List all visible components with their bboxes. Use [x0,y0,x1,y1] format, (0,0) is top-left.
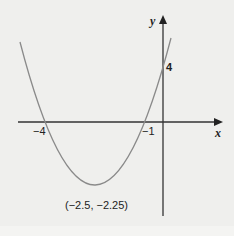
x-axis-label: x [215,126,221,141]
vertex-label: (−2.5, −2.25) [65,199,128,211]
diagram-panel: y x 4 −4 −1 (−2.5, −2.25) [0,0,234,226]
y-intercept-label: 4 [166,61,172,73]
parabola-curve [20,38,171,185]
y-axis-label: y [150,14,155,29]
root-right-label: −1 [142,125,155,137]
root-left-label: −4 [33,125,46,137]
